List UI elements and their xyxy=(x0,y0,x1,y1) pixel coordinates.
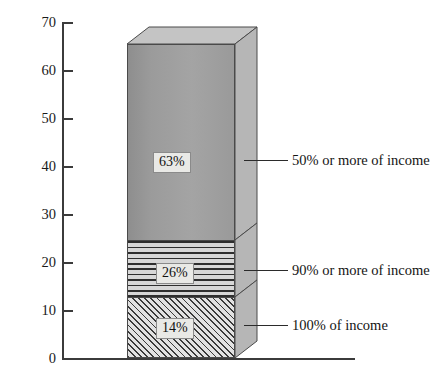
bar-segment-50-or-more xyxy=(127,44,235,240)
data-label-50-or-more: 63% xyxy=(153,152,191,173)
legend-label-100: 100% of income xyxy=(292,318,388,333)
leader-line-90-or-more xyxy=(244,270,288,271)
data-label-90-or-more: 26% xyxy=(156,263,194,284)
leader-line-50-or-more xyxy=(244,160,288,161)
legend-label-50-or-more: 50% or more of income xyxy=(292,153,430,168)
legend-label-90-or-more: 90% or more of income xyxy=(292,263,430,278)
data-label-100: 14% xyxy=(156,318,194,339)
bar-side-face-50 xyxy=(235,27,257,240)
leader-line-100 xyxy=(244,325,288,326)
